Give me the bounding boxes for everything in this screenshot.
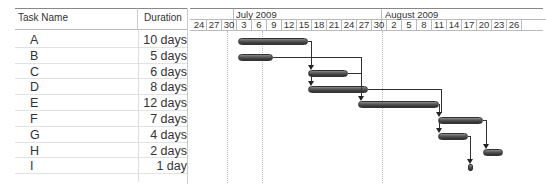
task-name: H — [30, 144, 39, 158]
task-name: G — [30, 128, 40, 142]
dependency-link — [441, 89, 442, 113]
task-duration: 7 days — [150, 112, 187, 126]
arrow-down-icon — [436, 128, 442, 133]
timescale-tick: 27 — [207, 20, 222, 30]
column-divider — [138, 30, 139, 182]
timescale-tick: 26 — [507, 20, 522, 30]
timescale-tick: 17 — [462, 20, 477, 30]
dependency-link — [348, 73, 361, 74]
task-duration: 12 days — [143, 96, 187, 110]
timescale-tick: 6 — [252, 20, 267, 30]
arrow-down-icon — [308, 81, 314, 86]
timescale-tick: 18 — [312, 20, 327, 30]
timescale-tick: 8 — [417, 20, 432, 30]
task-name: D — [30, 80, 39, 94]
timescale-tick: 12 — [282, 20, 297, 30]
timescale-tick: 27 — [357, 20, 372, 30]
task-name: B — [30, 49, 38, 63]
gantt-bar-b[interactable] — [238, 54, 273, 61]
timescale-tick: 5 — [402, 20, 417, 30]
task-name: E — [30, 96, 38, 110]
task-duration: 5 days — [150, 49, 187, 63]
timescale-tick: 2 — [387, 20, 402, 30]
dependency-link — [470, 136, 471, 160]
task-duration: 10 days — [143, 33, 187, 47]
timescale-tick: 24 — [192, 20, 207, 30]
task-duration: 4 days — [150, 128, 187, 142]
column-header-duration[interactable]: Duration — [138, 8, 188, 30]
table-row[interactable]: F7 days — [15, 111, 188, 127]
timescale-tick: 24 — [342, 20, 357, 30]
table-row[interactable]: E12 days — [15, 95, 188, 111]
gantt-bar-c[interactable] — [308, 70, 348, 77]
task-duration: 8 days — [150, 80, 187, 94]
table-row[interactable]: G4 days — [15, 127, 188, 143]
gantt-bar-a[interactable] — [238, 38, 308, 45]
timescale-tick: 11 — [432, 20, 447, 30]
table-row[interactable]: A10 days — [15, 32, 188, 48]
gantt-bar-d[interactable] — [308, 86, 368, 93]
table-row[interactable]: B5 days — [15, 48, 188, 64]
table-row[interactable]: H2 days — [15, 143, 188, 159]
dependency-link — [486, 120, 487, 145]
timescale-tick: 15 — [297, 20, 312, 30]
dependency-link — [361, 57, 362, 97]
table-row[interactable]: C6 days — [15, 64, 188, 80]
table-row[interactable]: D8 days — [15, 79, 188, 95]
timescale-tick: 3 — [237, 20, 252, 30]
dependency-link — [273, 57, 361, 58]
task-name: C — [30, 65, 39, 79]
task-duration: 1 day — [156, 159, 187, 173]
task-duration: 6 days — [150, 65, 187, 79]
dependency-link — [311, 41, 312, 66]
table-row[interactable]: I1 day — [15, 158, 188, 174]
timescale-tick: 14 — [447, 20, 462, 30]
arrow-down-icon — [308, 65, 314, 70]
gantt-bar-g[interactable] — [438, 133, 468, 140]
column-header-task-name[interactable]: Task Name — [15, 8, 138, 30]
gridline — [227, 31, 228, 183]
timescale-tick: 30 — [372, 20, 387, 30]
gantt-bar-i[interactable] — [468, 164, 473, 171]
task-name: F — [30, 112, 38, 126]
task-name: I — [30, 159, 33, 173]
timescale-bottom-border — [190, 30, 543, 31]
arrow-down-icon — [436, 112, 442, 117]
timescale-tick: 9 — [267, 20, 282, 30]
table-gantt-divider[interactable] — [187, 8, 188, 184]
gantt-bar-e[interactable] — [358, 101, 439, 108]
arrow-down-icon — [467, 159, 473, 164]
timescale-tick: 20 — [477, 20, 492, 30]
gantt-bar-f[interactable] — [438, 117, 483, 124]
dependency-link — [368, 89, 441, 90]
arrow-down-icon — [358, 96, 364, 101]
timescale-tick: 23 — [492, 20, 507, 30]
timescale-tick: 21 — [327, 20, 342, 30]
gantt-bar-h[interactable] — [483, 149, 503, 156]
arrow-down-icon — [483, 144, 489, 149]
task-duration: 2 days — [150, 144, 187, 158]
timescale-tick: 30 — [222, 20, 237, 30]
task-name: A — [30, 33, 38, 47]
